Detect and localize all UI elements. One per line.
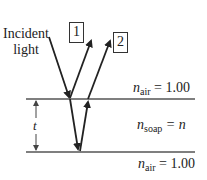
refracted-ray-down — [70, 99, 78, 149]
ray-2-label-box: 2 — [113, 32, 128, 53]
internal-reflected-ray-up — [80, 102, 88, 151]
film-medium-label: nsoap = n — [137, 117, 186, 134]
film-medium-subscript: soap — [144, 123, 162, 134]
bottom-medium-value: = 1.00 — [159, 156, 195, 171]
incident-label-line2: light — [3, 42, 49, 58]
top-medium-subscript: air — [140, 86, 151, 97]
ray-1-label: 1 — [73, 24, 80, 39]
bottom-medium-label: nair = 1.00 — [138, 156, 195, 173]
incident-ray — [49, 37, 69, 97]
top-medium-symbol: n — [133, 80, 140, 95]
transmitted-ray-2 — [88, 41, 110, 99]
reflected-ray-1 — [70, 41, 91, 98]
film-medium-value: = n — [166, 117, 186, 132]
ray-2-label: 2 — [117, 34, 124, 49]
bottom-medium-symbol: n — [138, 156, 145, 171]
top-medium-value: = 1.00 — [154, 80, 190, 95]
bottom-medium-subscript: air — [145, 162, 156, 173]
incident-light-label: Incident light — [3, 26, 49, 58]
thickness-label: t — [33, 118, 37, 134]
top-medium-label: nair = 1.00 — [133, 80, 190, 97]
incident-label-line1: Incident — [3, 26, 49, 42]
film-medium-symbol: n — [137, 117, 144, 132]
ray-1-label-box: 1 — [69, 22, 84, 43]
